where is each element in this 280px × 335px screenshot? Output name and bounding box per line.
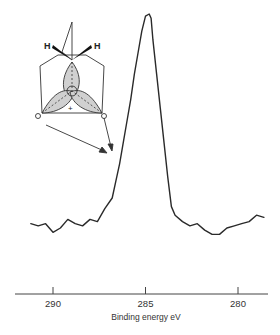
plus-label: + [68,104,73,113]
wedge-bond-left [52,45,72,60]
h-label-left: H [44,41,51,51]
x-axis: 290285280 Binding energy eV [15,287,268,322]
x-tick-label: 290 [45,298,61,309]
x-axis-title: Binding energy eV [111,312,181,322]
x-tick-label: 285 [138,298,154,309]
inset-orbital-diagram: H H + [36,22,107,119]
wedge-bond-right [72,45,92,60]
xps-spectrum-chart: 290285280 Binding energy eV H H + [0,0,280,335]
x-tick-label: 280 [230,298,246,309]
spectrum-line [31,14,264,234]
h-label-right: H [94,41,101,51]
shoulder-arrows [46,118,113,153]
